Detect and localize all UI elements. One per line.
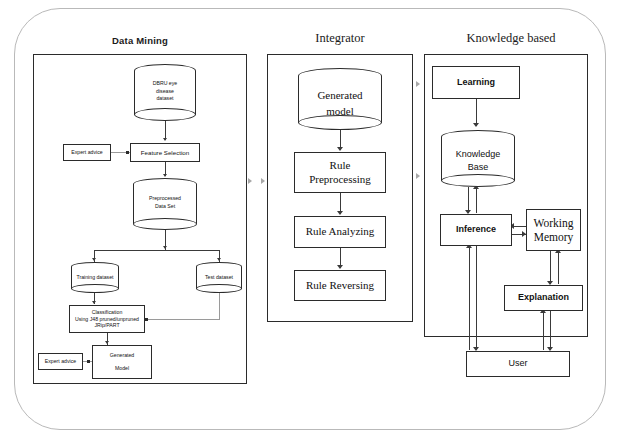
arrowhead-preprocessing-to-analyzing [337,211,343,215]
column-header-integrator: Integrator [288,31,392,46]
node-knowledge-base: Knowledge Base [441,130,515,187]
arrowhead-analyzing-to-reversing [337,265,343,269]
junction-dot-feature [126,151,129,154]
arrowhead-training-to-classification [92,301,96,304]
connector-wm-explanation-down [550,251,551,284]
node-training-dataset: Training dataset [71,262,119,293]
arrowhead-dataset-to-feature [163,138,167,141]
connector-explanation-wm-up [558,251,559,284]
arrowhead-to-training [92,258,96,261]
cylinder-bottom-ellipse [441,174,515,187]
cylinder-bottom-ellipse [71,284,119,293]
connector-learning-to-kb [476,99,477,126]
node-expert-advice-bottom: Expert advice [38,353,83,370]
connector-split-horizontal [94,250,220,251]
arrowhead-dm-to-integrator-in [261,178,265,184]
arrowhead-classification-to-model [105,341,109,344]
node-expert-advice-top: Expert advice [63,144,111,161]
arrowhead-to-test [217,258,221,261]
diagram-canvas: Data Mining Integrator Knowledge based D… [0,0,623,440]
node-working-memory: Working Memory [526,209,581,251]
arrowhead-dm-to-integrator-out [248,178,252,184]
cylinder-bottom-ellipse [134,108,196,121]
node-rule-preprocessing: Rule Preprocessing [294,152,386,193]
connector-explanation-to-user-down [550,311,551,350]
connector-user-to-explanation-up [543,311,544,350]
node-training-dataset-label: Training dataset [71,274,119,282]
node-preprocessed-dataset: Preprocessed Data Set [133,178,197,230]
arrowhead-integrator-to-learning [416,81,420,87]
arrowhead-learning-to-kb [473,123,479,127]
junction-dot-classification [145,318,148,321]
arrowhead-integrator-to-kb [416,173,420,179]
node-generated-model-dm: Generated Model [92,345,152,379]
connector-test-horizontal [148,319,220,320]
node-rule-reversing: Rule Reversing [294,270,386,301]
node-user: User [466,351,570,377]
node-explanation: Explanation [504,285,583,311]
column-header-knowledge-based: Knowledge based [444,31,578,46]
connector-kb-inference-up [476,187,477,213]
connector-inference-to-user-down [476,246,477,350]
node-test-dataset: Test dataset [196,262,242,293]
node-inference: Inference [440,214,512,246]
column-header-data-mining: Data Mining [90,35,190,46]
node-generated-model-integrator: Generated model [298,68,382,130]
connector-wm-to-inference [512,226,526,227]
junction-dot-model [87,360,90,363]
node-preprocessed-dataset-label: Preprocessed Data Set [133,195,197,210]
node-test-dataset-label: Test dataset [196,274,242,282]
cylinder-bottom-ellipse [133,218,197,230]
node-knowledge-base-label: Knowledge Base [441,148,515,174]
node-source-dataset-label: DBRU eye disease dataset [134,80,196,103]
node-classification: Classification Using J48 pruned/unpruned… [69,305,145,333]
cylinder-bottom-ellipse [196,284,242,293]
node-learning: Learning [432,66,520,99]
node-generated-model-integrator-label: Generated model [298,88,382,120]
arrowhead-model-to-preprocessing [337,147,343,151]
connector-test-down [219,293,220,320]
connector-user-to-inference-up [469,246,470,350]
arrowhead-feature-to-preprocessed [163,174,167,177]
node-rule-analyzing: Rule Analyzing [294,216,386,248]
node-feature-selection: Feature Selection [130,143,200,162]
node-source-dataset: DBRU eye disease dataset [134,64,196,121]
arrowhead-preprocessed-split [163,246,167,249]
